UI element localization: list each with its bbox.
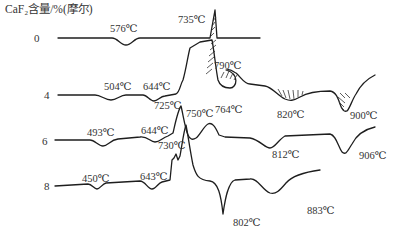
peak-label-730: 730℃ [158, 141, 186, 152]
peak-label-450: 450℃ [82, 174, 110, 185]
peak-label-493: 493℃ [87, 128, 115, 139]
peak-label-802: 802℃ [233, 218, 261, 229]
peak-label-576: 576℃ [110, 24, 138, 35]
peak-label-643: 643℃ [140, 172, 168, 183]
peak-label-820: 820℃ [277, 110, 305, 121]
peak-label-735: 735℃ [178, 15, 206, 26]
curve-4 [58, 40, 375, 111]
row-label-4: 4 [44, 90, 50, 101]
peak-label-750: 750℃ [186, 109, 214, 120]
peak-label-883: 883℃ [307, 206, 335, 217]
peak-label-644-row6: 644℃ [141, 126, 169, 137]
row-label-0: 0 [34, 33, 40, 44]
peak-label-644-row4: 644℃ [143, 82, 171, 93]
peak-label-504: 504℃ [104, 82, 132, 93]
row-label-6: 6 [42, 136, 48, 147]
peak-label-812: 812℃ [272, 150, 300, 161]
dta-chart: CaF₂含量/%(摩尔) 0 4 6 8 576℃ 735℃ 504℃ 644℃… [0, 0, 393, 238]
row-label-8: 8 [44, 181, 50, 192]
peak-label-900: 900℃ [350, 111, 378, 122]
peak-label-790: 790℃ [214, 61, 242, 72]
peak-label-725: 725℃ [154, 101, 182, 112]
y-axis-title: CaF₂含量/%(摩尔) [5, 4, 93, 16]
peak-label-906: 906℃ [359, 151, 387, 162]
peak-label-764: 764℃ [215, 105, 243, 116]
